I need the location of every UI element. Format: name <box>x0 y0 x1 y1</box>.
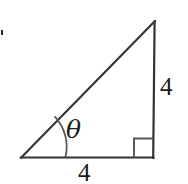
scan-speck-artifact <box>1 30 3 35</box>
right-angle-marker-icon <box>134 139 153 158</box>
triangle-hypotenuse-line <box>21 21 155 158</box>
angle-label-theta: θ <box>66 117 81 142</box>
side-length-label-bottom: 4 <box>78 160 91 184</box>
triangle-right-leg-line <box>153 22 154 158</box>
side-length-label-right: 4 <box>160 74 173 99</box>
triangle-figure: θ 4 4 <box>0 0 188 184</box>
